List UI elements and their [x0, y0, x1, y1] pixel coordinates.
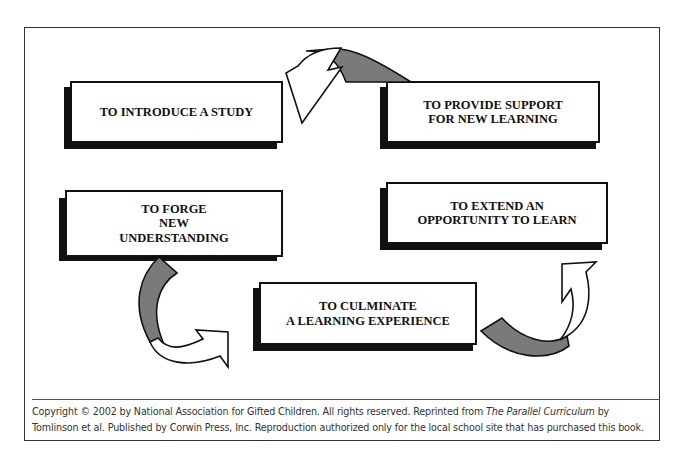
copyright-footer: Copyright © 2002 by National Association… — [32, 404, 672, 436]
copyright-text: by — [595, 406, 609, 417]
curved-arrow-icon — [286, 48, 411, 123]
copyright-text: Copyright © 2002 by National Association… — [32, 406, 486, 417]
footer-divider — [32, 399, 660, 400]
book-title: The Parallel Curriculum — [486, 406, 595, 417]
curved-arrow-icon — [481, 262, 596, 356]
cycle-arrows — [0, 0, 683, 463]
copyright-line-2: Tomlinson et al. Published by Corwin Pre… — [32, 420, 672, 436]
copyright-line-1: Copyright © 2002 by National Association… — [32, 404, 672, 420]
curved-arrow-icon — [139, 257, 228, 367]
